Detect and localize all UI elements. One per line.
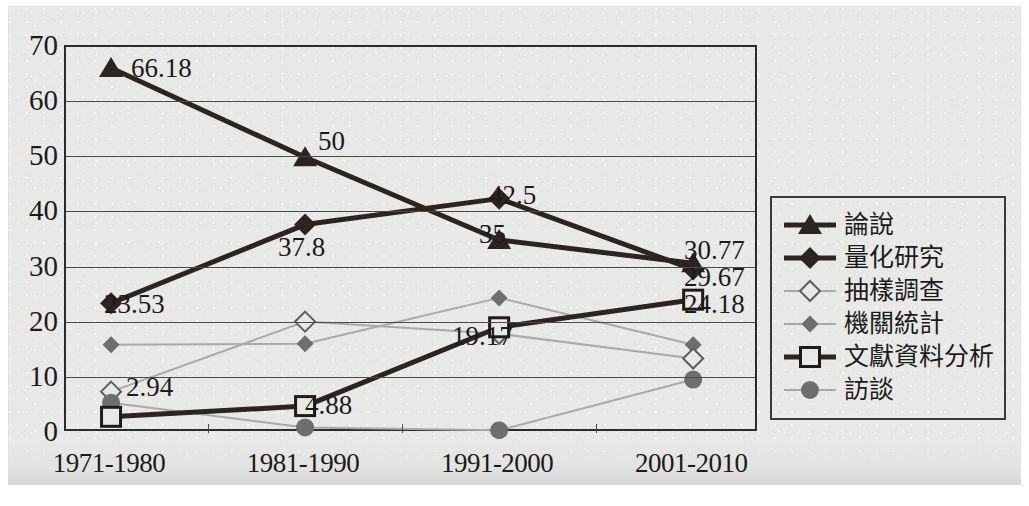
series-line <box>111 322 693 392</box>
gridline <box>66 101 755 102</box>
data-point-hollow-diamond <box>683 349 703 369</box>
gridline <box>66 211 755 212</box>
legend-marker-filled-triangle-icon <box>782 212 838 238</box>
legend-item-4[interactable]: 文獻資料分析 <box>782 340 996 373</box>
data-point-filled-diamond <box>799 247 821 269</box>
legend-marker-filled-diamond-icon <box>782 245 838 271</box>
data-point-hollow-diamond <box>800 281 820 301</box>
legend-marker-hollow-square-icon <box>782 344 838 370</box>
y-tick-label: 30 <box>10 252 58 281</box>
legend-label: 論說 <box>838 212 894 237</box>
data-point-hollow-square <box>801 347 820 366</box>
legend-label: 機關統計 <box>838 311 944 336</box>
data-label: 50 <box>318 128 345 155</box>
legend-label: 訪談 <box>838 377 894 402</box>
data-label: 23.53 <box>104 291 165 318</box>
data-point-filled-triangle <box>99 57 123 77</box>
x-tick-label: 1991-2000 <box>441 448 554 479</box>
gridline <box>66 156 755 157</box>
legend-label: 量化研究 <box>838 245 944 270</box>
y-tick-label: 40 <box>10 196 58 225</box>
x-tick-label: 2001-2010 <box>635 448 748 479</box>
data-label: 30.77 <box>684 237 745 264</box>
data-label: 42.5 <box>489 182 536 209</box>
legend-item-1[interactable]: 量化研究 <box>782 241 996 274</box>
data-label: 35 <box>479 221 506 248</box>
legend-item-3[interactable]: 機關統計 <box>782 307 996 340</box>
y-tick-label: 70 <box>10 31 58 60</box>
legend-item-0[interactable]: 論說 <box>782 208 996 241</box>
data-point-filled-circle <box>684 371 702 389</box>
data-point-small-filled-diamond <box>802 315 819 332</box>
data-point-hollow-square <box>102 407 121 426</box>
data-label: 2.94 <box>126 374 173 401</box>
data-point-small-filled-diamond <box>297 335 314 352</box>
y-tick-label: 0 <box>10 417 58 446</box>
data-label: 24.18 <box>684 291 745 318</box>
data-label: 19.17 <box>452 323 513 350</box>
x-tick-label: 1981-1990 <box>247 448 360 479</box>
gridline <box>66 267 755 268</box>
y-tick-label: 60 <box>10 86 58 115</box>
series-line <box>111 300 693 417</box>
x-tick-mark <box>596 424 597 433</box>
legend-label: 文獻資料分析 <box>838 344 994 369</box>
legend-item-2[interactable]: 抽樣調查 <box>782 274 996 307</box>
legend-label: 抽樣調查 <box>838 278 944 303</box>
series-line <box>111 68 693 263</box>
y-tick-label: 10 <box>10 362 58 391</box>
y-tick-label: 20 <box>10 307 58 336</box>
data-point-filled-circle <box>801 381 819 399</box>
data-point-filled-circle <box>296 418 314 436</box>
y-tick-label: 50 <box>10 141 58 170</box>
chart-page: 010203040506070 論說量化研究抽樣調查機關統計文獻資料分析訪談 1… <box>0 0 1029 506</box>
legend-marker-hollow-diamond-icon <box>782 278 838 304</box>
x-tick-mark <box>402 424 403 433</box>
data-point-filled-circle <box>490 421 508 439</box>
data-label: 29.67 <box>684 264 745 291</box>
series-line <box>111 380 693 431</box>
legend-marker-small-filled-diamond-icon <box>782 311 838 337</box>
data-label: 66.18 <box>131 55 192 82</box>
legend-marker-filled-circle-icon <box>782 377 838 403</box>
series-1 <box>100 188 704 315</box>
legend-item-5[interactable]: 訪談 <box>782 373 996 406</box>
x-tick-label: 1971-1980 <box>53 448 166 479</box>
data-point-small-filled-diamond <box>103 336 120 353</box>
y-axis: 010203040506070 <box>0 45 58 431</box>
series-4 <box>102 290 703 426</box>
data-point-small-filled-diamond <box>491 289 508 306</box>
data-label: 4.88 <box>305 392 352 419</box>
x-tick-mark <box>208 424 209 433</box>
chart-legend: 論說量化研究抽樣調查機關統計文獻資料分析訪談 <box>770 196 1006 420</box>
data-label: 37.8 <box>278 234 325 261</box>
gridline <box>66 322 755 323</box>
